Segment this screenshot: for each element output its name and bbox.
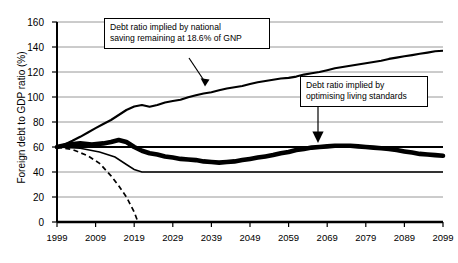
- x-tick-2079: 2079: [349, 232, 383, 243]
- y-tick-60: 60: [16, 142, 44, 153]
- y-tick-0: 0: [16, 217, 44, 228]
- callout-optimising-arrow: [312, 104, 323, 143]
- series-line-decline-to-zero: [57, 147, 138, 222]
- x-tick-2099: 2099: [426, 232, 458, 243]
- y-tick-100: 100: [16, 92, 44, 103]
- x-tick-2089: 2089: [387, 232, 421, 243]
- y-tick-160: 160: [16, 17, 44, 28]
- y-tick-80: 80: [16, 117, 44, 128]
- x-tick-1999: 1999: [40, 232, 74, 243]
- x-tick-2049: 2049: [233, 232, 267, 243]
- y-tick-140: 140: [16, 42, 44, 53]
- annotation-national-saving: Debt ratio implied by national saving re…: [104, 18, 270, 49]
- x-tick-2029: 2029: [156, 232, 190, 243]
- y-tick-120: 120: [16, 67, 44, 78]
- y-tick-40: 40: [16, 167, 44, 178]
- x-tick-2009: 2009: [79, 232, 113, 243]
- x-tick-2069: 2069: [310, 232, 344, 243]
- y-tick-20: 20: [16, 192, 44, 203]
- x-tick-2039: 2039: [194, 232, 228, 243]
- series-line-optimising: [57, 140, 443, 163]
- x-tick-2059: 2059: [272, 232, 306, 243]
- x-tick-2019: 2019: [117, 232, 151, 243]
- annotation-optimising-living-standards: Debt ratio implied by optimising living …: [300, 76, 428, 107]
